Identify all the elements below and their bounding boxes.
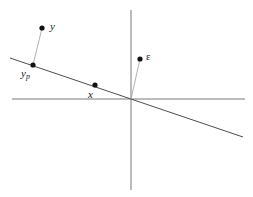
point-label-y-p-subscript: p xyxy=(26,72,30,81)
subspace-line xyxy=(10,58,243,137)
point-epsilon xyxy=(137,56,142,61)
point-label-y: y xyxy=(50,21,55,32)
point-y xyxy=(39,25,44,30)
projection-diagram: y yp x ε xyxy=(0,0,253,197)
point-label-y-p: yp xyxy=(21,68,30,79)
point-y-p xyxy=(30,62,35,67)
point-label-epsilon: ε xyxy=(146,51,151,62)
point-label-x: x xyxy=(88,89,93,100)
point-x xyxy=(92,82,97,87)
diagram-canvas xyxy=(0,0,253,197)
residual-connector-line xyxy=(33,28,42,65)
epsilon-connector-line xyxy=(131,59,140,99)
